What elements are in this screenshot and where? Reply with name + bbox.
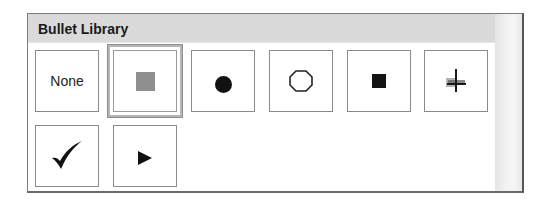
- hollow-octagon-icon: [288, 69, 314, 93]
- bullet-option-hollow-octagon[interactable]: [269, 50, 333, 112]
- bullet-option-black-square[interactable]: [347, 50, 411, 112]
- bullet-option-checkmark[interactable]: [35, 125, 99, 187]
- filled-circle-icon: [215, 76, 232, 93]
- bullet-option-none[interactable]: None: [35, 50, 99, 112]
- scrollbar-track[interactable]: [495, 14, 522, 191]
- bullet-option-cross-star[interactable]: [424, 50, 488, 112]
- cross-star-icon: [441, 66, 471, 96]
- gray-square-icon: [136, 72, 155, 91]
- panel-title: Bullet Library: [38, 21, 128, 37]
- bullet-library-panel: Bullet Library None: [27, 13, 524, 193]
- bullet-option-arrowhead[interactable]: [113, 125, 177, 187]
- bullet-option-gray-square[interactable]: [113, 50, 177, 112]
- panel-header: Bullet Library: [28, 14, 522, 43]
- none-label: None: [50, 73, 83, 89]
- checkmark-icon: [49, 139, 85, 173]
- black-square-icon: [372, 74, 386, 88]
- bullet-option-filled-circle[interactable]: [191, 50, 255, 112]
- arrowhead-right-icon: [135, 148, 155, 168]
